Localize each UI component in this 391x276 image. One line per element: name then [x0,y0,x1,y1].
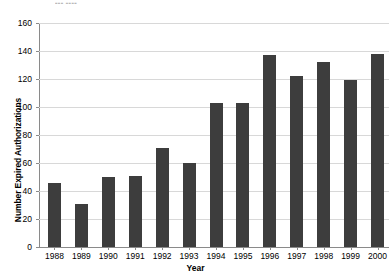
y-tick-label: 100 [2,103,32,112]
y-tick-mark [36,51,39,52]
y-tick-mark [36,79,39,80]
y-tick-label: 20 [2,215,32,224]
bar [129,176,142,247]
bar [263,55,276,247]
y-tick-mark [36,247,39,248]
bar [317,62,330,247]
y-tick-mark [36,23,39,24]
bar [75,204,88,247]
bar [48,183,61,247]
y-tick-mark [36,219,39,220]
y-tick-label: 140 [2,47,32,56]
y-tick-label: 40 [2,187,32,196]
x-axis-title: Year [0,263,391,273]
bar [371,54,384,247]
clipped-chart-title: ▪▪▪ ▪▪▪▪ [55,0,135,4]
y-tick-label: 60 [2,159,32,168]
x-tick-mark [81,247,82,250]
x-tick-mark [54,247,55,250]
gridline [39,23,389,24]
y-tick-mark [36,191,39,192]
x-tick-mark [216,247,217,250]
bar [183,163,196,247]
bar-chart-figure: ▪▪▪ ▪▪▪▪ Number Expired Authorizations 0… [0,0,391,276]
y-tick-mark [36,135,39,136]
x-tick-mark [324,247,325,250]
y-tick-label: 160 [2,19,32,28]
x-axis-line [39,247,389,248]
x-tick-mark [189,247,190,250]
x-tick-label: 2000 [358,252,391,261]
x-tick-mark [297,247,298,250]
y-tick-label: 0 [2,243,32,252]
bar [102,177,115,247]
x-tick-mark [108,247,109,250]
bar [156,148,169,247]
y-tick-label: 120 [2,75,32,84]
bar [344,80,357,247]
bar [236,103,249,247]
gridline [39,79,389,80]
x-tick-mark [135,247,136,250]
y-tick-mark [36,163,39,164]
gridline [39,51,389,52]
bar [290,76,303,247]
x-tick-mark [243,247,244,250]
x-tick-mark [270,247,271,250]
y-tick-mark [36,107,39,108]
x-tick-mark [351,247,352,250]
bar [210,103,223,247]
y-tick-label: 80 [2,131,32,140]
plot-area: 0204060801001201401601988198919901991199… [39,23,389,247]
x-tick-mark [378,247,379,250]
x-tick-mark [162,247,163,250]
